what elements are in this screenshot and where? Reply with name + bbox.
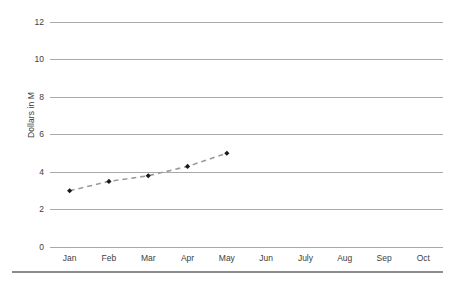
x-tick-label-jan: Jan [48, 252, 92, 264]
y-tick-label-10: 10 [22, 55, 44, 64]
y-tick-label-2: 2 [22, 205, 44, 214]
x-axis-tick-labels: JanFebMarAprMayJunJulyAugSepOct [50, 252, 443, 266]
x-tick-label-july: July [283, 252, 327, 264]
x-tick-label-may: May [205, 252, 249, 264]
data-point-apr [185, 164, 190, 169]
y-tick-label-8: 8 [22, 93, 44, 102]
plot-area [50, 22, 443, 247]
data-point-may [224, 151, 229, 156]
y-axis-tick-labels: 024681012 [22, 22, 44, 247]
x-tick-label-jun: Jun [244, 252, 288, 264]
x-tick-label-mar: Mar [126, 252, 170, 264]
bottom-rule-divider [12, 271, 443, 273]
x-tick-label-aug: Aug [323, 252, 367, 264]
x-tick-label-sep: Sep [362, 252, 406, 264]
series-line-0 [70, 153, 227, 191]
y-tick-label-4: 4 [22, 168, 44, 177]
x-tick-label-apr: Apr [166, 252, 210, 264]
x-tick-label-feb: Feb [87, 252, 131, 264]
y-tick-label-12: 12 [22, 18, 44, 27]
series-markers-group [67, 151, 229, 194]
line-chart-figure: Dollars in M 024681012 JanFebMarAprMayJu… [0, 0, 454, 283]
data-point-feb [106, 179, 111, 184]
series-layer [50, 22, 443, 247]
x-tick-label-oct: Oct [401, 252, 445, 264]
data-point-mar [146, 173, 151, 178]
series-line-group [70, 153, 227, 191]
data-point-jan [67, 188, 72, 193]
y-tick-label-0: 0 [22, 243, 44, 252]
y-tick-label-6: 6 [22, 130, 44, 139]
